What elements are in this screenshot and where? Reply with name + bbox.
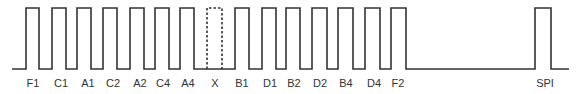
dashed-pulse	[207, 8, 222, 69]
pulse-label: D2	[313, 77, 327, 89]
pulse-label: D4	[367, 77, 381, 89]
pulse-label: D1	[263, 77, 277, 89]
pulse-label: B1	[235, 77, 248, 89]
pulse-label: A2	[133, 77, 146, 89]
pulse-label: C2	[106, 77, 120, 89]
pulse-label: C1	[54, 77, 68, 89]
pulse-label: A1	[81, 77, 94, 89]
waveform-line	[12, 8, 569, 69]
pulse-label: X	[211, 77, 218, 89]
pulse-label: B2	[287, 77, 300, 89]
pulse-label: F2	[392, 77, 405, 89]
pulse-label: A4	[181, 77, 194, 89]
dashed-pulse-x	[207, 8, 222, 69]
pulse-label: SPI	[536, 77, 554, 89]
pulse-label: B4	[339, 77, 352, 89]
pulse-label: F1	[27, 77, 40, 89]
pulse-label: C4	[156, 77, 170, 89]
